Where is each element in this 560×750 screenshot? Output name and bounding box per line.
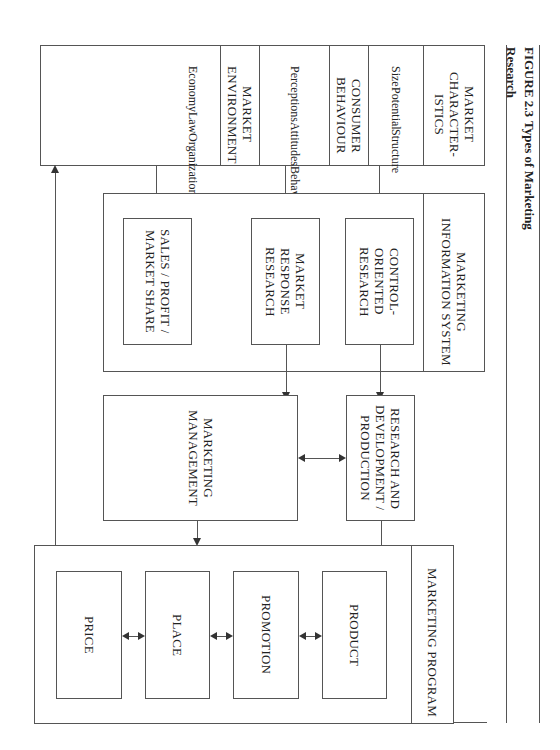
arrow-right-icon [138,632,145,640]
market-characteristics-header: MARKET CHARACTER- ISTICS [424,46,484,165]
connector [286,345,287,395]
arrow-up-icon [51,165,59,173]
market-characteristics-items: Size Potential Structure [369,46,423,165]
price-box: PRICE [56,571,122,699]
marketing-management-box: MARKETING MANAGEMENT [103,395,298,521]
arrow-left-icon [298,454,305,462]
arrow-left-icon [122,632,129,640]
consumer-behaviour-items: Perceptions Attitudes Behaviours Culture [260,46,329,165]
product-box: PRODUCT [322,571,387,699]
figure-caption: FIGURE 2.3 Types of Marketing Research [508,47,538,247]
market-environment-items: Economy Law Organizations [165,46,220,165]
consumer-behaviour-header: CONSUMER BEHAVIOUR [330,46,368,165]
arrow-left-icon [299,632,306,640]
promotion-box: PROMOTION [233,571,299,699]
connector [380,345,381,395]
caption-rule-right [539,45,540,723]
control-oriented-research-box: CONTROL- ORIENTED RESEARCH [345,218,414,345]
arrow-right-icon [339,454,346,462]
mis-header: MARKETING INFORMATION SYSTEM [424,194,484,371]
market-environment-header: MARKET ENVIRONMENT [221,46,259,165]
connector [301,458,343,459]
rd-production-box: RESEARCH AND DEVELOPMENT / PRODUCTION [346,395,415,521]
arrow-right-icon [226,632,233,640]
marketing-program-header: MARKETING PROGRAM [412,546,453,723]
caption-rule-left [506,45,507,723]
feedback-connector [55,168,56,546]
arrow-right-icon [315,632,322,640]
sales-profit-market-share-box: SALES / PROFIT / MARKET SHARE [123,218,192,345]
place-box: PLACE [145,571,210,699]
figure-number: FIGURE 2.3 [522,47,537,117]
arrow-left-icon [210,632,217,640]
market-response-research-box: MARKET RESPONSE RESEARCH [251,218,320,345]
